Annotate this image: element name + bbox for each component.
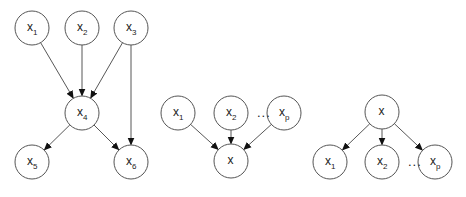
node-x5: x5: [15, 145, 49, 179]
node-label-base: x: [228, 153, 234, 167]
bayesian-network-nodes: x1x2x3x4x5x6: [15, 11, 148, 179]
node-label-subscript: 6: [132, 162, 137, 171]
node-x2: x2: [214, 96, 248, 130]
node-x: x: [214, 144, 248, 178]
edge-x4-to-x6: [94, 125, 119, 150]
edge-x4-to-x5: [44, 125, 69, 150]
nodes-layer: x1x2x3x4x5x6x1x2xpx...xx1x2xp...: [15, 11, 452, 179]
edge-xp-to-x: [244, 124, 271, 149]
node-label-subscript: 1: [179, 113, 184, 122]
node-label-subscript: 5: [33, 162, 38, 171]
node-x2: x2: [65, 11, 99, 45]
graphical-models-figure: x1x2x3x4x5x6x1x2xpx...xx1x2xp...: [0, 0, 466, 197]
edge-x-to-x1: [343, 124, 370, 150]
node-x1: x1: [161, 96, 195, 130]
node-xp: xp: [418, 145, 452, 179]
node-label-subscript: 4: [83, 113, 88, 122]
node-label-subscript: 3: [132, 28, 137, 37]
parent-to-children-nodes: xx1x2xp...: [313, 95, 452, 179]
node-label: x: [228, 153, 234, 167]
node-x3: x3: [114, 11, 148, 45]
node-x: x: [365, 95, 399, 129]
node-xp: xp: [267, 96, 301, 130]
node-label-subscript: 2: [383, 162, 388, 171]
node-label-subscript: 2: [83, 28, 88, 37]
node-x2: x2: [365, 145, 399, 179]
diagram-canvas: x1x2x3x4x5x6x1x2xpx...xx1x2xp...: [0, 0, 466, 197]
edge-x1-to-x: [191, 124, 218, 149]
node-label-base: x: [379, 104, 385, 118]
node-x1: x1: [313, 145, 347, 179]
node-x1: x1: [15, 11, 49, 45]
node-label-subscript: 2: [232, 113, 237, 122]
node-label-subscript: p: [285, 113, 290, 122]
edge-x-to-xp: [394, 124, 422, 150]
node-label-subscript: p: [436, 162, 441, 171]
ellipsis: ...: [257, 105, 271, 120]
edge-x3-to-x4: [91, 43, 123, 98]
node-x6: x6: [114, 145, 148, 179]
node-x4: x4: [65, 96, 99, 130]
node-label-subscript: 1: [331, 162, 336, 171]
ellipsis: ...: [408, 154, 422, 169]
node-label: x: [379, 104, 385, 118]
node-label-subscript: 1: [33, 28, 38, 37]
edge-x1-to-x4: [41, 43, 74, 98]
